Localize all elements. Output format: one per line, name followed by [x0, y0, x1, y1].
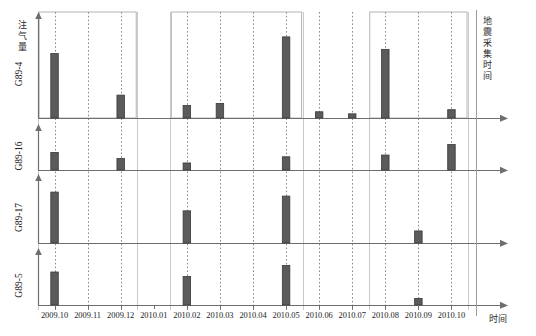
seismic-time-axis-title-char-0: 地 [483, 15, 492, 26]
gas-injection-chart: 2009.102009.112009.122010.012010.022010.… [0, 0, 536, 336]
seismic-time-axis-title-char-3: 集 [483, 48, 492, 59]
x-tick-label-2009.12: 2009.12 [107, 311, 134, 320]
x-tick-label-2010.06: 2010.06 [306, 311, 333, 320]
bar-g89-4-2010.06 [315, 112, 323, 118]
x-tick-label-2010.02: 2010.02 [173, 311, 200, 320]
bar-g89-4-2009.12 [117, 95, 125, 118]
bar-g89-4-2010.02 [183, 106, 191, 118]
y-axis-title-char-2: 量 [18, 42, 27, 52]
x-tick-label-2010.10: 2010.10 [438, 311, 465, 320]
bar-g89-16-2009.10 [51, 152, 59, 170]
bar-g89-5-2010.05 [282, 265, 290, 305]
bar-g89-17-2009.10 [51, 192, 59, 243]
panel-title-g89-5: G89-5 [14, 273, 24, 298]
bar-g89-5-2010.09 [415, 298, 423, 305]
x-tick-label-2010.04: 2010.04 [239, 311, 267, 320]
x-tick-label-2010.05: 2010.05 [272, 311, 299, 320]
seismic-time-axis-title-char-4: 时 [483, 59, 492, 70]
bar-g89-4-2010.03 [216, 103, 224, 118]
bar-g89-4-2010.07 [348, 114, 356, 118]
x-axis-title: 时间 [489, 313, 507, 324]
bar-g89-16-2009.12 [117, 159, 125, 170]
x-tick-label-2010.07: 2010.07 [339, 311, 366, 320]
bar-g89-4-2010.10 [448, 110, 456, 118]
x-tick-label-2009.10: 2009.10 [41, 311, 68, 320]
x-tick-label-2010.08: 2010.08 [372, 311, 399, 320]
bar-g89-4-2010.05 [282, 37, 290, 118]
y-axis-title: 注气量 [18, 19, 27, 52]
panel-title-g89-16: G89-16 [14, 141, 24, 170]
panel-title-g89-4: G89-4 [14, 62, 24, 87]
bar-g89-5-2009.10 [51, 272, 59, 305]
x-tick-label-2009.11: 2009.11 [74, 311, 101, 320]
x-tick-label-2010.01: 2010.01 [140, 311, 167, 320]
bar-g89-16-2010.02 [183, 163, 191, 170]
y-axis-title-char-1: 气 [18, 30, 27, 41]
bar-g89-16-2010.10 [448, 144, 456, 170]
bar-g89-17-2010.09 [415, 231, 423, 243]
chart-canvas: 2009.102009.112009.122010.012010.022010.… [0, 0, 536, 336]
seismic-time-axis-title-char-5: 间 [483, 70, 492, 81]
panel-title-g89-17: G89-17 [14, 203, 24, 232]
x-tick-label-2010.09: 2010.09 [405, 311, 432, 320]
seismic-time-axis-title-char-2: 采 [483, 38, 492, 48]
bar-g89-4-2010.08 [382, 49, 390, 118]
bar-g89-17-2010.02 [183, 211, 191, 243]
y-axis-title-char-0: 注 [18, 19, 27, 30]
bar-g89-4-2009.10 [51, 54, 59, 118]
bar-g89-17-2010.05 [282, 196, 290, 243]
x-tick-label-2010.03: 2010.03 [206, 311, 233, 320]
bar-g89-16-2010.05 [282, 157, 290, 170]
bar-g89-5-2010.02 [183, 276, 191, 305]
seismic-time-axis-title-char-1: 震 [483, 27, 492, 37]
bar-g89-16-2010.08 [382, 155, 390, 170]
